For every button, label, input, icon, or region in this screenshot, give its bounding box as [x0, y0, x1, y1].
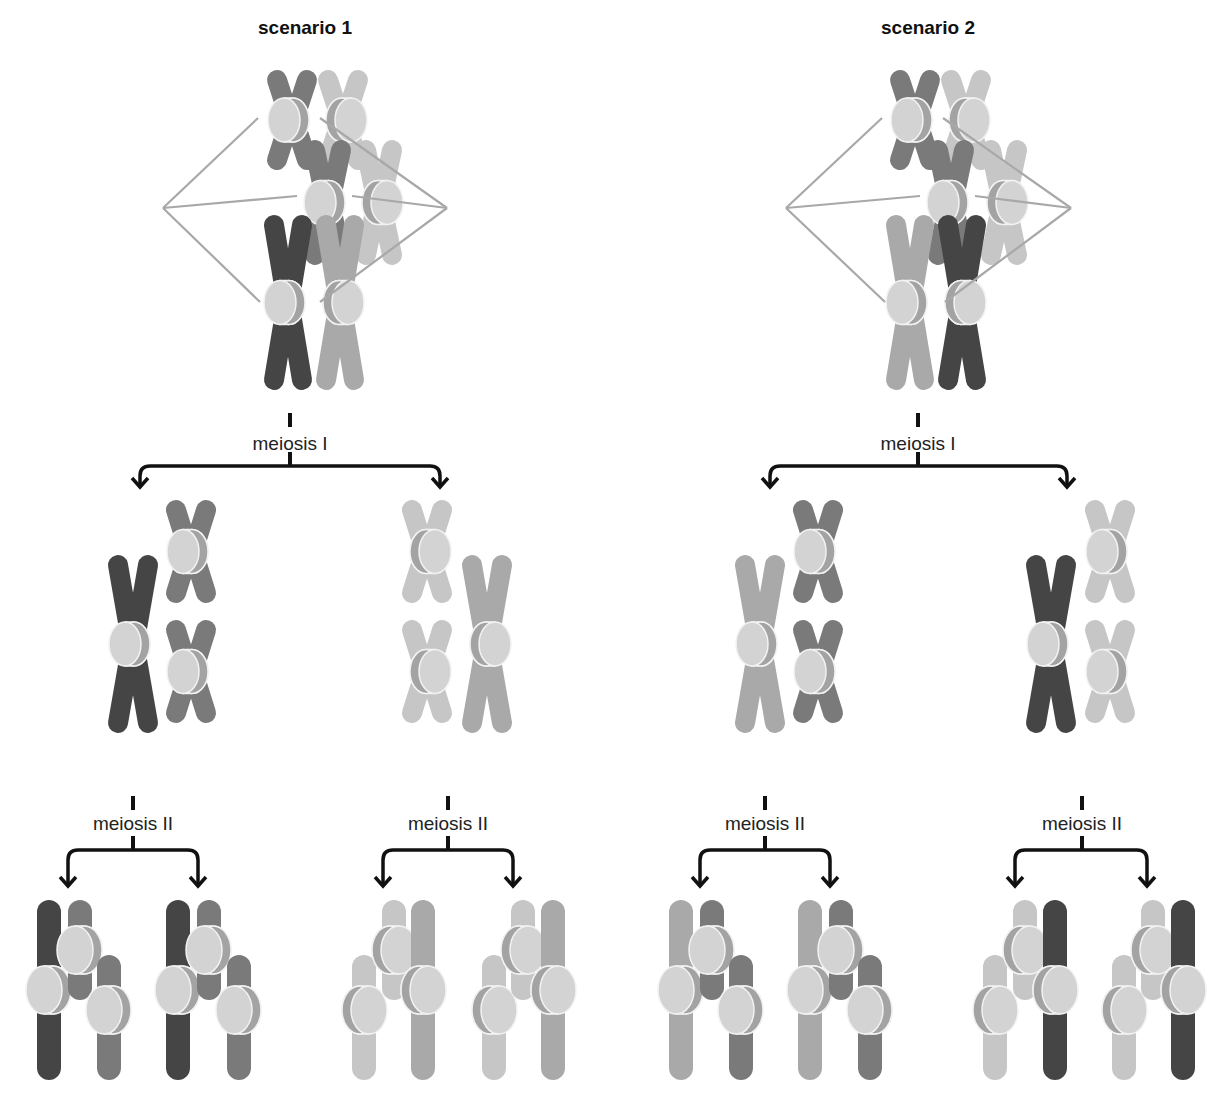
chromatid-light: [1102, 955, 1147, 1080]
chromosome-medium: [736, 565, 777, 723]
centromere-icon: [410, 530, 451, 574]
chromatid-medium: [658, 900, 703, 1080]
meiosis-i-daughter-cell: [1027, 510, 1127, 723]
chromosome-light: [1086, 630, 1127, 713]
centromere-icon: [186, 926, 231, 974]
centromere-icon: [1102, 986, 1147, 1034]
centromere-icon: [891, 98, 932, 142]
centromere-icon: [167, 650, 208, 694]
centromere-icon: [167, 530, 208, 574]
gamete-cell: [342, 900, 446, 1080]
chromatid-mdark: [86, 955, 131, 1080]
centromere-icon: [372, 926, 417, 974]
meiosis-diagram: meiosis Imeiosis IImeiosis IIscenario 1 …: [0, 0, 1214, 1110]
chromatid-mdark: [847, 955, 892, 1080]
scenario-1-panel: meiosis Imeiosis IImeiosis IIscenario 1: [26, 17, 576, 1080]
chromosome-dark: [109, 565, 150, 723]
centromere-icon: [1086, 650, 1127, 694]
chromosome-medium: [886, 225, 927, 380]
chromatid-medium: [401, 900, 446, 1080]
centromere-icon: [268, 98, 309, 142]
centromere-icon: [736, 622, 777, 666]
chromosome-mdark: [167, 510, 208, 593]
chromatid-light: [472, 955, 517, 1080]
chromatid-medium: [531, 900, 576, 1080]
stage-label: meiosis II: [725, 813, 805, 834]
centromere-icon: [1131, 926, 1176, 974]
centromere-icon: [216, 986, 261, 1034]
centromere-icon: [501, 926, 546, 974]
centromere-icon: [264, 281, 305, 325]
chromosome-dark: [264, 225, 305, 380]
gamete-cell: [26, 900, 131, 1080]
gamete-cell: [658, 900, 763, 1080]
meiosis-i-daughter-cell: [109, 510, 208, 723]
chromosome-mdark: [167, 630, 208, 713]
chromatid-mdark: [216, 955, 261, 1080]
chromosome-light: [1086, 510, 1127, 593]
chromosome-mdark: [891, 80, 932, 160]
metaphase-cell: [786, 80, 1071, 380]
chromosome-medium: [323, 225, 364, 380]
division-arrow: meiosis I: [132, 413, 448, 487]
gamete-cell: [973, 900, 1078, 1080]
chromosome-light: [410, 510, 451, 593]
centromere-icon: [26, 966, 71, 1014]
centromere-icon: [109, 622, 150, 666]
chromosome-mdark: [268, 80, 309, 160]
centromere-icon: [886, 281, 927, 325]
chromatid-mdark: [718, 955, 763, 1080]
metaphase-cell: [163, 80, 447, 380]
centromere-icon: [410, 650, 451, 694]
centromere-icon: [1003, 926, 1048, 974]
centromere-icon: [401, 966, 446, 1014]
centromere-icon: [155, 966, 200, 1014]
chromosome-dark: [945, 225, 986, 380]
division-arrow: meiosis II: [60, 796, 206, 886]
centromere-icon: [689, 926, 734, 974]
gamete-cell: [787, 900, 892, 1080]
division-arrow: meiosis II: [692, 796, 838, 886]
centromere-icon: [323, 281, 364, 325]
meiosis-i-daughter-cell: [410, 510, 511, 723]
centromere-icon: [1086, 530, 1127, 574]
centromere-icon: [1161, 966, 1206, 1014]
centromere-icon: [818, 926, 863, 974]
centromere-icon: [342, 986, 387, 1034]
chromatid-dark: [1161, 900, 1206, 1080]
centromere-icon: [787, 966, 832, 1014]
stage-label: meiosis II: [408, 813, 488, 834]
gamete-cell: [472, 900, 576, 1080]
centromere-icon: [472, 986, 517, 1034]
stage-label: meiosis I: [881, 433, 956, 454]
chromatid-light: [973, 955, 1018, 1080]
gamete-cell: [155, 900, 261, 1080]
centromere-icon: [794, 650, 835, 694]
centromere-icon: [973, 986, 1018, 1034]
chromosome-medium: [470, 565, 511, 723]
chromatid-dark: [155, 900, 200, 1080]
centromere-icon: [470, 622, 511, 666]
chromatid-dark: [1033, 900, 1078, 1080]
stage-label: meiosis II: [93, 813, 173, 834]
scenario-2-title: scenario 2: [881, 17, 975, 38]
scenario-1-title: scenario 1: [258, 17, 352, 38]
chromatid-light: [342, 955, 387, 1080]
scenario-2-panel: meiosis Imeiosis IImeiosis IIscenario 2: [658, 17, 1206, 1080]
centromere-icon: [86, 986, 131, 1034]
stage-label: meiosis I: [253, 433, 328, 454]
chromosome-mdark: [794, 630, 835, 713]
stage-label: meiosis II: [1042, 813, 1122, 834]
chromosome-dark: [1027, 565, 1068, 723]
gamete-cell: [1102, 900, 1206, 1080]
centromere-icon: [658, 966, 703, 1014]
meiosis-i-daughter-cell: [736, 510, 835, 723]
division-arrow: meiosis II: [375, 796, 521, 886]
centromere-icon: [326, 98, 367, 142]
chromosome-light: [410, 630, 451, 713]
division-arrow: meiosis II: [1007, 796, 1155, 886]
chromosome-mdark: [794, 510, 835, 593]
chromatid-dark: [26, 900, 71, 1080]
centromere-icon: [718, 986, 763, 1034]
chromatid-medium: [787, 900, 832, 1080]
